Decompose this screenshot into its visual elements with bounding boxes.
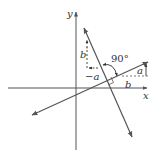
- angle-label: 90°: [111, 53, 129, 64]
- rise-a-label: a: [137, 65, 143, 76]
- perpendicular-lines-diagram: x y a b b ' −a 90°: [0, 0, 164, 160]
- y-axis-label: y: [66, 8, 73, 19]
- perp-rise-prime-mark: ': [86, 46, 88, 54]
- perp-run-neg-a-label: −a: [85, 71, 99, 82]
- x-axis-label: x: [143, 90, 149, 101]
- run-b-label: b: [125, 79, 131, 90]
- rotation-arc: [103, 64, 117, 76]
